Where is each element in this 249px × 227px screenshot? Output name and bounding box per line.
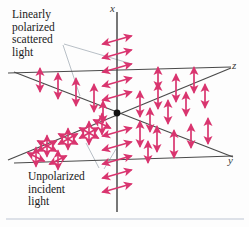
scattered-light-label: Linearly polarized scattered light bbox=[12, 8, 88, 58]
arrows-z-axis-positive bbox=[137, 68, 207, 131]
axis-label-x: x bbox=[110, 3, 115, 14]
scattering-polarization-figure: x z y Linearly polarized scattered light… bbox=[0, 0, 249, 227]
leader-lines bbox=[63, 44, 132, 169]
incident-light-label: Unpolarized incident light bbox=[28, 170, 118, 208]
arrows-z-axis-negative bbox=[37, 69, 105, 122]
origin-dot bbox=[114, 110, 121, 117]
bottom-divider bbox=[6, 218, 244, 220]
axis-label-z: z bbox=[232, 60, 236, 71]
axis-label-y: y bbox=[228, 155, 233, 166]
